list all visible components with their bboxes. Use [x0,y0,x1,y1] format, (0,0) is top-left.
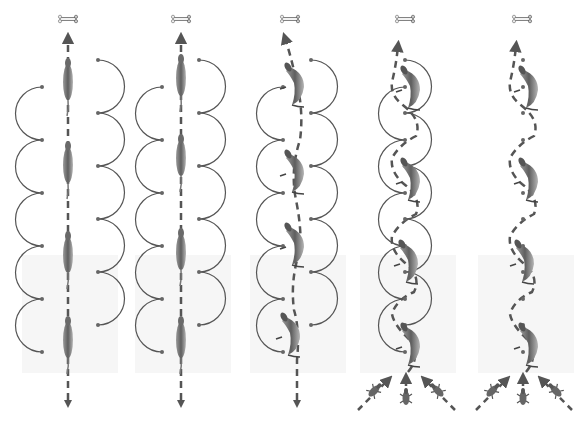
animal-icon [514,156,538,202]
animal-icon [63,141,73,199]
start-arrow-icon [177,400,185,408]
start-arrow-icon [293,400,301,408]
bone-icon [58,15,77,23]
small-animal-icon [545,380,566,401]
bone-icon [512,15,531,23]
bone-icon [395,15,414,23]
floor-shadow [250,255,346,373]
diagram-canvas [0,0,584,424]
locomotion-diagram [0,0,584,424]
small-animal-icon [365,380,386,401]
small-animal-icon [400,388,412,405]
bone-icon [171,15,190,23]
bone-icon [280,15,299,23]
small-animal-icon [517,388,529,405]
start-arrow-icon [64,400,72,408]
animal-icon [176,134,186,192]
animal-icon [280,148,304,194]
animal-icon [176,54,186,112]
small-animal-icon [483,380,504,401]
animal-icon [514,64,538,110]
animal-icon [63,58,73,116]
small-animal-icon [427,380,448,401]
